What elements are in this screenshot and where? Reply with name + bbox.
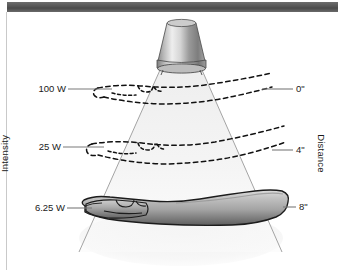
- figure-container: Intensity Distance 100 W 25 W 6.25 W 0" …: [0, 0, 338, 270]
- lamp-shade: [158, 21, 205, 63]
- tick-label-distance-0in: 0": [296, 83, 305, 94]
- tick-label-intensity-25w: 25 W: [0, 141, 61, 152]
- tick-label-distance-8in: 8": [299, 201, 308, 212]
- tick-label-intensity-100w: 100 W: [0, 83, 66, 94]
- axis-label-distance: Distance: [316, 134, 327, 173]
- tick-label-distance-4in: 4": [296, 144, 305, 155]
- tick-label-intensity-6-25w: 6.25 W: [0, 202, 65, 213]
- lamp-top-rim: [167, 19, 196, 26]
- lamp-fixture: [157, 19, 206, 75]
- lamp-aperture: [158, 64, 206, 73]
- diagram-canvas: [0, 0, 338, 270]
